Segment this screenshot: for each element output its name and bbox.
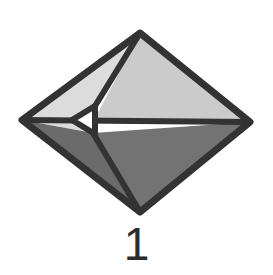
figure-number-label: 1 bbox=[0, 216, 273, 272]
edge-midline bbox=[22, 120, 250, 122]
crystal-figure: 1 bbox=[0, 0, 273, 275]
